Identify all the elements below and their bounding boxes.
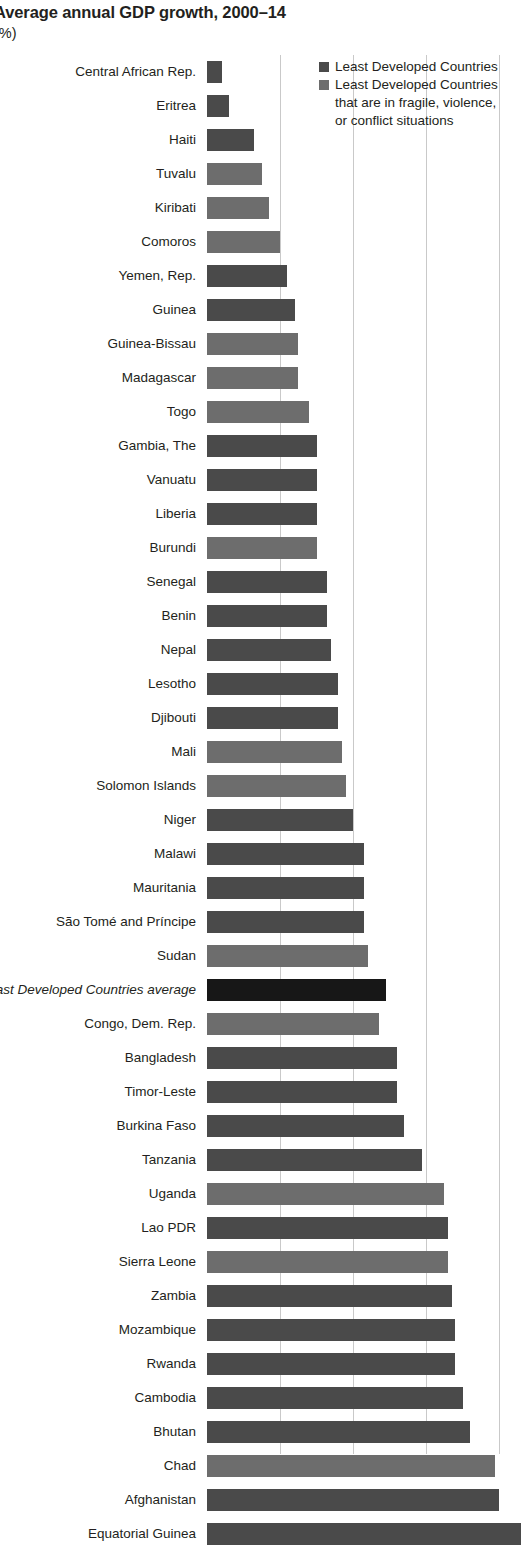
category-label-row: Guinea-Bissau bbox=[0, 327, 201, 361]
category-label: Malawi bbox=[154, 846, 196, 862]
bar-equatorial-guinea bbox=[207, 1523, 521, 1545]
chart-legend: Least Developed Countries Least Develope… bbox=[319, 58, 519, 130]
bar-row bbox=[207, 871, 521, 905]
bar-bhutan bbox=[207, 1421, 470, 1443]
bar-rows bbox=[207, 55, 521, 1549]
category-label: Central African Rep. bbox=[75, 64, 196, 80]
legend-label-2-line3: or conflict situations bbox=[335, 112, 498, 130]
legend-label-2-line2: that are in fragile, violence, bbox=[335, 94, 498, 112]
bar-lesotho bbox=[207, 673, 338, 695]
bar-central-african-rep bbox=[207, 61, 222, 83]
category-label: Haiti bbox=[169, 132, 196, 148]
bar-row bbox=[207, 1109, 521, 1143]
category-label-row: Chad bbox=[0, 1449, 201, 1483]
category-label-row: Madagascar bbox=[0, 361, 201, 395]
category-label-row: Uganda bbox=[0, 1177, 201, 1211]
bar-malawi bbox=[207, 843, 364, 865]
bar-senegal bbox=[207, 571, 327, 593]
category-axis-labels: Central African Rep.EritreaHaitiTuvaluKi… bbox=[0, 55, 201, 1549]
category-label-row: Malawi bbox=[0, 837, 201, 871]
category-label-row: Cambodia bbox=[0, 1381, 201, 1415]
category-label: Rwanda bbox=[146, 1356, 196, 1372]
bar-least-developed-countries-average bbox=[207, 979, 386, 1001]
category-label: Eritrea bbox=[156, 98, 196, 114]
category-label: Uganda bbox=[149, 1186, 196, 1202]
category-label: Bhutan bbox=[153, 1424, 196, 1440]
legend-label-2: Least Developed Countries that are in fr… bbox=[335, 76, 498, 130]
bar-liberia bbox=[207, 503, 317, 525]
bar-comoros bbox=[207, 231, 280, 253]
bar-row bbox=[207, 429, 521, 463]
bar-mozambique bbox=[207, 1319, 455, 1341]
bar-guinea-bissau bbox=[207, 333, 298, 355]
category-label: Timor-Leste bbox=[124, 1084, 196, 1100]
category-label-row: Least Developed Countries average bbox=[0, 973, 201, 1007]
category-label: Zambia bbox=[151, 1288, 196, 1304]
bar-yemen-rep bbox=[207, 265, 287, 287]
category-label: Comoros bbox=[141, 234, 196, 250]
category-label-row: Zambia bbox=[0, 1279, 201, 1313]
bar-row bbox=[207, 1075, 521, 1109]
category-label-row: Kiribati bbox=[0, 191, 201, 225]
category-label: Benin bbox=[161, 608, 196, 624]
category-label-row: Bhutan bbox=[0, 1415, 201, 1449]
legend-item-least-developed-countries: Least Developed Countries bbox=[319, 58, 519, 76]
bar-uganda bbox=[207, 1183, 444, 1205]
legend-label-2-line1: Least Developed Countries bbox=[335, 76, 498, 94]
bar-row bbox=[207, 1245, 521, 1279]
category-label: Liberia bbox=[155, 506, 196, 522]
category-label-row: Sudan bbox=[0, 939, 201, 973]
bar-eritrea bbox=[207, 95, 229, 117]
bar-row bbox=[207, 191, 521, 225]
category-label-row: Niger bbox=[0, 803, 201, 837]
category-label: Afghanistan bbox=[125, 1492, 196, 1508]
category-label: Least Developed Countries average bbox=[0, 982, 196, 998]
bar-row bbox=[207, 701, 521, 735]
bar-mauritania bbox=[207, 877, 364, 899]
category-label-row: Mali bbox=[0, 735, 201, 769]
bar-sierra-leone bbox=[207, 1251, 448, 1273]
category-label: Lao PDR bbox=[141, 1220, 196, 1236]
bar-nepal bbox=[207, 639, 331, 661]
bar-row bbox=[207, 1041, 521, 1075]
bar-row bbox=[207, 1381, 521, 1415]
category-label-row: Tuvalu bbox=[0, 157, 201, 191]
category-label-row: Central African Rep. bbox=[0, 55, 201, 89]
chart-header: Average annual GDP growth, 2000–14 (%) bbox=[0, 0, 514, 42]
category-label-row: Togo bbox=[0, 395, 201, 429]
bar-row bbox=[207, 667, 521, 701]
category-label: Niger bbox=[164, 812, 196, 828]
bar-haiti bbox=[207, 129, 254, 151]
legend-item-fragile-conflict: Least Developed Countries that are in fr… bbox=[319, 76, 519, 130]
bar-row bbox=[207, 1415, 521, 1449]
category-label: Kiribati bbox=[155, 200, 196, 216]
category-label: Gambia, The bbox=[118, 438, 196, 454]
bar-row bbox=[207, 1143, 521, 1177]
category-label-row: Lesotho bbox=[0, 667, 201, 701]
bar-row bbox=[207, 157, 521, 191]
category-label-row: Vanuatu bbox=[0, 463, 201, 497]
bar-row bbox=[207, 327, 521, 361]
bar-row bbox=[207, 769, 521, 803]
category-label-row: Mauritania bbox=[0, 871, 201, 905]
category-label-row: Bangladesh bbox=[0, 1041, 201, 1075]
category-label: Sudan bbox=[157, 948, 196, 964]
bar-gambia-the bbox=[207, 435, 317, 457]
category-label: Djibouti bbox=[151, 710, 196, 726]
category-label: Burundi bbox=[149, 540, 196, 556]
category-label: Cambodia bbox=[134, 1390, 196, 1406]
bar-mali bbox=[207, 741, 342, 763]
legend-swatch-dark-icon bbox=[319, 62, 329, 72]
category-label: Senegal bbox=[146, 574, 196, 590]
category-label-row: Comoros bbox=[0, 225, 201, 259]
bar-row bbox=[207, 1279, 521, 1313]
bar-madagascar bbox=[207, 367, 298, 389]
category-label: Guinea bbox=[152, 302, 196, 318]
bar-row bbox=[207, 599, 521, 633]
bar-row bbox=[207, 803, 521, 837]
category-label: Nepal bbox=[161, 642, 196, 658]
bar-row bbox=[207, 1177, 521, 1211]
category-label: Togo bbox=[167, 404, 196, 420]
category-label: Burkina Faso bbox=[116, 1118, 196, 1134]
category-label-row: Burundi bbox=[0, 531, 201, 565]
